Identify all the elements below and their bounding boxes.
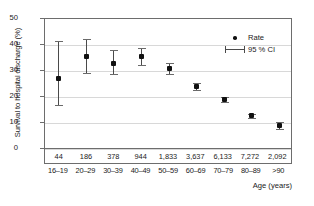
legend-label-ci: 95 % CI: [248, 45, 275, 54]
gridline: [45, 97, 291, 98]
count-cell: 7,272: [236, 149, 263, 163]
legend-label-rate: Rate: [248, 33, 264, 42]
x-tick-label: 16–19: [44, 166, 72, 178]
data-point-marker: [194, 84, 199, 89]
error-bar-cap-lower: [110, 74, 118, 75]
data-point-marker: [56, 76, 61, 81]
y-tick-label: 40: [0, 39, 18, 48]
data-point-marker: [167, 66, 172, 71]
error-bar-cap-lower: [138, 65, 146, 66]
y-tick-label: 20: [0, 91, 18, 100]
y-tick-label: 50: [0, 13, 18, 22]
data-point-marker: [111, 61, 116, 66]
error-bar-cap-lower: [276, 129, 284, 130]
x-tick-label: 20–29: [72, 166, 100, 178]
chart-figure: Survival to hospital discharge (%) 01020…: [0, 0, 314, 206]
data-point-marker: [277, 123, 282, 128]
error-bar-marker-icon: [222, 43, 248, 55]
y-axis-title: Survival to hospital discharge (%): [13, 8, 22, 158]
count-cell: 6,133: [209, 149, 236, 163]
error-bar: [58, 41, 59, 105]
y-tick-mark: [40, 18, 44, 19]
error-bar-cap-upper: [55, 41, 63, 42]
chart-legend: Rate 95 % CI: [222, 31, 292, 55]
x-tick-label: 40–49: [127, 166, 155, 178]
x-tick-label: 30–39: [99, 166, 127, 178]
y-tick-mark: [40, 44, 44, 45]
y-tick-label: 30: [0, 65, 18, 74]
count-cell: 44: [45, 149, 72, 163]
data-point-marker: [139, 54, 144, 59]
data-point-marker: [249, 113, 254, 118]
y-tick-label: 0: [0, 143, 18, 152]
y-tick-mark: [40, 96, 44, 97]
error-bar-cap-upper: [166, 63, 174, 64]
count-cell: 2,092: [264, 149, 291, 163]
x-axis-tick-labels: 16–1920–2930–3940–4950–5960–6970–7980–89…: [44, 166, 292, 178]
error-bar-cap-lower: [83, 73, 91, 74]
error-bar-cap-upper: [83, 39, 91, 40]
error-bar-cap-upper: [110, 50, 118, 51]
y-tick-mark: [40, 70, 44, 71]
x-tick-label: 70–79: [209, 166, 237, 178]
x-tick-label: >90: [265, 166, 293, 178]
count-cell: 944: [127, 149, 154, 163]
error-bar-cap-lower: [55, 105, 63, 106]
dot-marker-icon: [222, 31, 248, 43]
x-tick-label: 80–89: [237, 166, 265, 178]
count-cell: 1,833: [154, 149, 181, 163]
legend-item-ci: 95 % CI: [222, 43, 292, 55]
error-bar-cap-lower: [166, 74, 174, 75]
legend-item-rate: Rate: [222, 31, 292, 43]
error-bar-cap-lower: [193, 90, 201, 91]
y-tick-label: 10: [0, 117, 18, 126]
counts-row: 441863789441,8333,6376,1337,2722,092: [44, 149, 292, 164]
y-tick-mark: [40, 122, 44, 123]
x-tick-label: 50–59: [154, 166, 182, 178]
x-axis-title: Age (years): [253, 181, 292, 190]
x-tick-label: 60–69: [182, 166, 210, 178]
count-cell: 378: [100, 149, 127, 163]
count-cell: 3,637: [182, 149, 209, 163]
error-bar-cap-lower: [221, 102, 229, 103]
data-point-marker: [84, 54, 89, 59]
data-point-marker: [222, 97, 227, 102]
gridline: [45, 123, 291, 124]
count-cell: 186: [72, 149, 99, 163]
error-bar-cap-upper: [138, 48, 146, 49]
